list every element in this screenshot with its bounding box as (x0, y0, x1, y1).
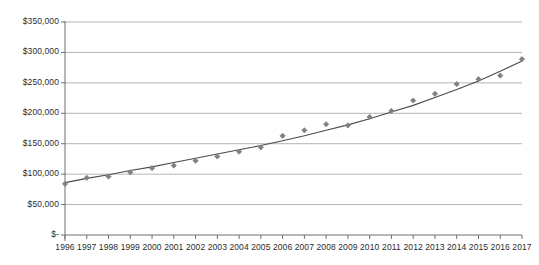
y-axis-label-$250,000: $250,000 (23, 77, 59, 87)
gridlines-group (65, 22, 522, 235)
y-axis-label-$100,000: $100,000 (23, 168, 59, 178)
data-point-markers-group (62, 57, 524, 187)
y-axis-label-$350,000: $350,000 (23, 16, 59, 26)
data-point-marker (324, 122, 329, 127)
data-point-marker (280, 133, 285, 138)
y-axis-label-$300,000: $300,000 (23, 46, 59, 56)
data-point-marker (411, 98, 416, 103)
data-point-marker (432, 91, 437, 96)
data-point-marker (454, 81, 459, 86)
x-axis-label-2017: 2017 (507, 242, 537, 252)
chart-plot-area (0, 0, 539, 265)
y-axis-label-$200,000: $200,000 (23, 107, 59, 117)
y-axis-label-$150,000: $150,000 (23, 138, 59, 148)
x-tick-marks-group (65, 235, 522, 239)
data-point-marker (171, 163, 176, 168)
trend-line-series (65, 61, 522, 183)
data-point-marker (345, 123, 350, 128)
data-point-marker (519, 57, 524, 62)
data-point-marker (84, 175, 89, 180)
data-point-marker (498, 73, 503, 78)
chart-container: $350,000$300,000$250,000$200,000$150,000… (0, 0, 539, 265)
y-axis-label-$50,000: $50,000 (28, 199, 59, 209)
y-axis-label-$-: $- (51, 229, 59, 239)
data-point-marker (302, 128, 307, 133)
data-point-marker (476, 77, 481, 82)
trend-line (65, 61, 522, 183)
axes-group (61, 21, 65, 241)
